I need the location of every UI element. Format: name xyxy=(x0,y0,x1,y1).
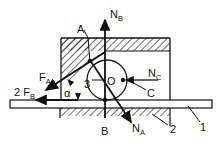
label-roller-3: 3 xyxy=(84,78,90,90)
label-part-1: 1 xyxy=(200,121,206,133)
label-fa: FA xyxy=(39,71,51,86)
label-part-2: 2 xyxy=(170,123,176,135)
label-na: NA xyxy=(132,122,145,137)
label-2fb: 2 FB xyxy=(14,86,35,101)
label-a: A xyxy=(77,23,85,35)
label-alpha: α xyxy=(64,87,71,99)
label-c: C xyxy=(147,87,155,99)
guide-part-2 xyxy=(60,108,170,126)
label-nb: NB xyxy=(110,8,123,23)
label-b: B xyxy=(101,125,108,137)
force-diagram: NB A FA 2 FB α 3 O NC C B NA 2 1 xyxy=(0,0,221,147)
label-center-o: O xyxy=(107,75,116,87)
rod-part-1 xyxy=(10,100,212,108)
